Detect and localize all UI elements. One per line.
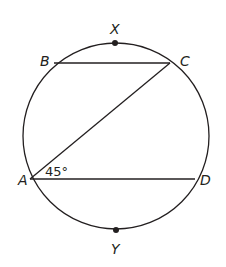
angle-label-45: 45° — [45, 164, 68, 179]
label-a: A — [17, 172, 28, 188]
point-x-dot — [112, 40, 118, 46]
label-b: B — [40, 53, 50, 69]
label-d: D — [200, 172, 211, 188]
label-y: Y — [111, 241, 121, 257]
point-y-dot — [113, 227, 119, 233]
chord-ac — [30, 63, 170, 179]
circle — [23, 43, 209, 229]
label-c: C — [180, 53, 190, 69]
circle-chord-diagram: X B C A D Y 45° — [0, 0, 226, 267]
label-x: X — [109, 21, 120, 37]
